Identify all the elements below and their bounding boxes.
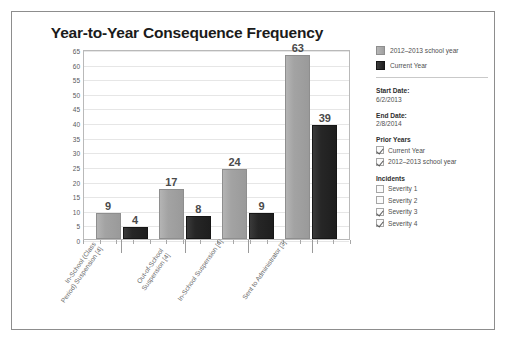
bar-holder: 17 — [159, 51, 184, 239]
bar[interactable]: 24 — [222, 169, 247, 239]
end-date-value[interactable]: 2/8/2014 — [376, 120, 494, 127]
y-axis-tick-label: 35 — [73, 135, 80, 142]
x-axis-category-label: Sent to Administrator [3] — [240, 239, 288, 302]
bar-group: 6339 — [280, 51, 343, 239]
x-axis-category-label: In-School (ClassPeriod) Suspension [4] — [51, 241, 104, 307]
y-axis-tick-label: 30 — [73, 150, 80, 157]
y-axis-tick-label: 15 — [73, 194, 80, 201]
report-frame: Year-to-Year Consequence Frequency 65605… — [11, 11, 495, 330]
y-axis-tick-label: 25 — [73, 164, 80, 171]
incident-severity-option[interactable]: Severity 3 — [376, 208, 494, 216]
chart-legend: 2012–2013 school yearCurrent Year — [376, 46, 494, 70]
bar-holder: 24 — [222, 51, 247, 239]
y-axis-tick-label: 10 — [73, 208, 80, 215]
bar-value-label: 9 — [259, 200, 265, 212]
x-axis-category-label: Out-of-SchoolSuspension [4] — [123, 247, 171, 306]
y-axis-tick-label: 65 — [73, 48, 80, 55]
checkbox-unchecked-icon[interactable] — [376, 196, 384, 204]
incident-severity-option[interactable]: Severity 4 — [376, 219, 494, 227]
bar[interactable]: 9 — [96, 213, 121, 239]
end-date-field: End Date: 2/8/2014 — [376, 112, 494, 128]
bar-value-label: 8 — [195, 203, 201, 215]
legend-label: Current Year — [390, 62, 427, 69]
prior-years-checkbox-group: Current Year2012–2013 school year — [376, 146, 494, 166]
bar-group: 94 — [90, 51, 153, 239]
bar-holder: 9 — [96, 51, 121, 239]
incidents-heading: Incidents — [376, 175, 494, 182]
bar[interactable]: 4 — [123, 227, 148, 239]
y-axis-tick-label: 40 — [73, 121, 80, 128]
bar-group: 249 — [217, 51, 280, 239]
incident-severity-option[interactable]: Severity 2 — [376, 196, 494, 204]
report-page: Year-to-Year Consequence Frequency 65605… — [0, 0, 511, 342]
incident-severity-option-label: Severity 4 — [388, 220, 417, 227]
bar-value-label: 39 — [319, 112, 331, 124]
bar[interactable]: 39 — [312, 125, 337, 239]
y-axis-tick-label: 55 — [73, 77, 80, 84]
chart-title: Year-to-Year Consequence Frequency — [12, 24, 362, 42]
bar-value-label: 24 — [229, 156, 241, 168]
bar-value-label: 17 — [165, 176, 177, 188]
bar-group: 178 — [153, 51, 216, 239]
start-date-label: Start Date: — [376, 87, 494, 94]
chart-sidebar: 2012–2013 school yearCurrent Year Start … — [376, 46, 494, 231]
bar-groups: 941782496339 — [84, 51, 349, 239]
checkbox-checked-icon[interactable] — [376, 219, 384, 227]
incident-severity-option-label: Severity 1 — [388, 185, 417, 192]
checkbox-unchecked-icon[interactable] — [376, 185, 384, 193]
legend-item: 2012–2013 school year — [376, 46, 494, 55]
legend-item: Current Year — [376, 61, 494, 70]
checkbox-checked-icon[interactable] — [376, 208, 384, 216]
bar[interactable]: 9 — [249, 213, 274, 239]
tick-mark — [350, 240, 351, 244]
prior-year-option-label: 2012–2013 school year — [388, 158, 457, 165]
x-axis-category-label: In-School Suspension [4] — [176, 239, 224, 302]
start-date-field: Start Date: 6/2/2013 — [376, 87, 494, 103]
bar-value-label: 63 — [292, 42, 304, 54]
legend-swatch-icon — [376, 61, 385, 70]
legend-swatch-icon — [376, 46, 385, 55]
incidents-checkbox-group: Severity 1Severity 2Severity 3Severity 4 — [376, 185, 494, 228]
bar-holder: 8 — [186, 51, 211, 239]
prior-year-option-label: Current Year — [388, 147, 425, 154]
bar-holder: 39 — [312, 51, 337, 239]
bar-holder: 63 — [285, 51, 310, 239]
end-date-label: End Date: — [376, 112, 494, 119]
y-axis-tick-label: 5 — [76, 223, 80, 230]
start-date-value[interactable]: 6/2/2013 — [376, 96, 494, 103]
checkbox-checked-icon[interactable] — [376, 158, 384, 166]
y-axis-tick-label: 50 — [73, 91, 80, 98]
sidebar-divider — [376, 77, 488, 78]
bar[interactable]: 8 — [186, 216, 211, 239]
y-axis-tick-label: 60 — [73, 62, 80, 69]
prior-year-option[interactable]: 2012–2013 school year — [376, 158, 494, 166]
incident-severity-option-label: Severity 3 — [388, 208, 417, 215]
y-axis-tick-label: 20 — [73, 179, 80, 186]
incident-severity-option-label: Severity 2 — [388, 197, 417, 204]
chart-plot-wrapper: 65605550454035302520151050 941782496339 — [56, 50, 350, 240]
checkbox-checked-icon[interactable] — [376, 146, 384, 154]
y-axis-tick-label: 45 — [73, 106, 80, 113]
bar[interactable]: 63 — [285, 55, 310, 239]
x-axis-labels: In-School (ClassPeriod) Suspension [4]Ou… — [56, 240, 350, 324]
bar-value-label: 9 — [105, 200, 111, 212]
prior-years-heading: Prior Years — [376, 136, 494, 143]
incident-severity-option[interactable]: Severity 1 — [376, 185, 494, 193]
bar-value-label: 4 — [132, 214, 138, 226]
bar[interactable]: 17 — [159, 189, 184, 239]
legend-label: 2012–2013 school year — [390, 47, 459, 54]
prior-year-option[interactable]: Current Year — [376, 146, 494, 154]
plot-area: 65605550454035302520151050 941782496339 — [83, 50, 350, 240]
bar-holder: 9 — [249, 51, 274, 239]
bar-holder: 4 — [123, 51, 148, 239]
